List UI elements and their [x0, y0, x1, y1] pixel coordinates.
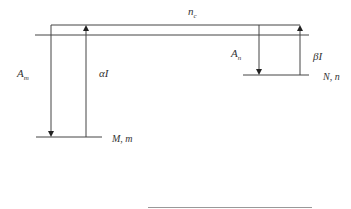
label-right-excitation: βI: [312, 50, 323, 62]
label-right-decay: An: [230, 47, 242, 62]
label-level-n: N, n: [322, 71, 340, 82]
label-level-m: M, m: [111, 133, 133, 144]
label-left-excitation: αI: [99, 67, 110, 79]
label-left-decay: Am: [16, 67, 29, 82]
energy-level-diagram: nc Am αI An βI M, m N, n: [0, 0, 351, 209]
label-top-level: nc: [188, 5, 198, 20]
